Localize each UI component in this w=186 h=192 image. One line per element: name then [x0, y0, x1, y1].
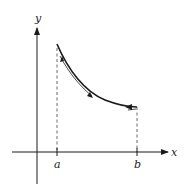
x-axis-label: x [171, 146, 178, 159]
tick-label-a: a [54, 158, 61, 171]
y-axis-label: y [34, 12, 42, 25]
process-curve [57, 44, 137, 107]
arrow-left-icon [125, 104, 132, 110]
tick-label-b: b [134, 158, 141, 171]
diagram-canvas: x y a b [0, 0, 186, 192]
arrow-left-tail [128, 109, 136, 110]
